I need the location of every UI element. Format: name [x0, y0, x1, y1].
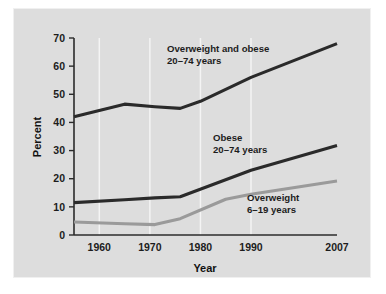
annotation-overweight: Overweight6–19 years [247, 192, 300, 215]
annotation-overweight-and-obese: Overweight and obese20–74 years [167, 43, 269, 66]
y-tick-label-20: 20 [53, 172, 65, 184]
figure-container: 010203040506070 19601970198019902007 Ove… [0, 0, 386, 294]
x-axis-title: Year [193, 262, 217, 274]
x-tick-label-2007: 2007 [325, 241, 349, 253]
y-tick-label-10: 10 [53, 201, 65, 213]
x-tick-label-1970: 1970 [138, 241, 162, 253]
y-tick-label-0: 0 [59, 229, 65, 241]
axes-group [74, 38, 337, 235]
x-ticks-group: 19601970198019902007 [88, 241, 349, 253]
y-tick-label-40: 40 [53, 116, 65, 128]
y-tick-label-60: 60 [53, 60, 65, 72]
y-tick-label-70: 70 [53, 32, 65, 44]
y-tick-label-50: 50 [53, 88, 65, 100]
y-axis-title: Percent [31, 116, 43, 157]
y-tick-label-30: 30 [53, 144, 65, 156]
annotation-obese: Obese20–74 years [213, 132, 267, 155]
y-ticks-group: 010203040506070 [53, 32, 74, 241]
x-tick-label-1990: 1990 [239, 241, 263, 253]
x-tick-label-1980: 1980 [189, 241, 213, 253]
x-tick-label-1960: 1960 [88, 241, 112, 253]
chart-svg: 010203040506070 19601970198019902007 Ove… [0, 0, 386, 294]
